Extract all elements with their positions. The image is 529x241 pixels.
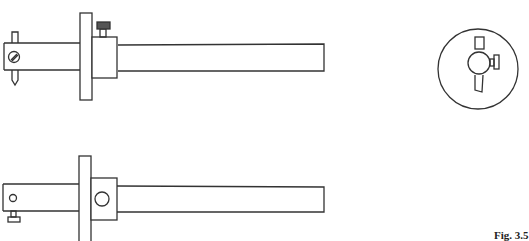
adjusting-screw-head bbox=[8, 217, 20, 222]
bottom-elevation-view bbox=[3, 156, 324, 241]
fence-face-circle bbox=[438, 29, 518, 109]
fence-bottom bbox=[79, 156, 91, 241]
pin-top bbox=[475, 37, 484, 49]
stem-right-bottom bbox=[117, 186, 324, 212]
thumbscrew-stem bbox=[100, 29, 106, 37]
screw-slot-icon bbox=[11, 54, 18, 61]
adjusting-screw-shank bbox=[11, 211, 16, 217]
top-elevation-view bbox=[4, 13, 324, 100]
pin-bottom bbox=[475, 75, 483, 92]
fence bbox=[80, 13, 92, 100]
stem-left-bottom bbox=[3, 184, 80, 211]
end-view bbox=[438, 29, 518, 109]
stem-right bbox=[118, 44, 324, 71]
stem-section bbox=[468, 52, 490, 74]
figure-label: Fig. 3.5 bbox=[494, 229, 529, 241]
side-screw-head bbox=[494, 55, 499, 69]
thumbscrew-head bbox=[97, 22, 110, 29]
fence-hub bbox=[92, 37, 117, 78]
stem-hole bbox=[10, 195, 17, 202]
